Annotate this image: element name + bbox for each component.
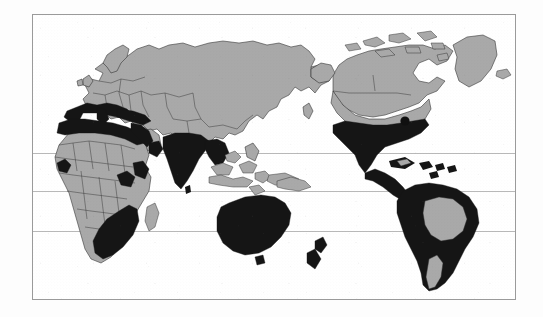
landmass-japan (303, 103, 313, 119)
region-tasmania (255, 255, 265, 265)
landmass-north-america (333, 45, 453, 117)
island-sri-lanka (185, 185, 191, 194)
landmass-madagascar (145, 203, 159, 231)
region-indian-subcontinent (163, 133, 209, 189)
landmass-ireland (77, 79, 83, 86)
world-map-svg (33, 15, 516, 300)
landmass-greenland (453, 35, 497, 87)
point-record-marker (400, 116, 409, 125)
landmass-philippines (245, 143, 259, 161)
region-southern-usa-mexico (333, 119, 429, 173)
caribbean-islands (389, 157, 457, 179)
region-new-zealand-south (307, 249, 321, 269)
figure-container (0, 0, 543, 317)
region-australia (217, 195, 291, 255)
region-new-zealand (315, 237, 327, 253)
region-indochina (205, 139, 229, 165)
map-frame (32, 14, 516, 300)
landmass-iceland (496, 69, 511, 79)
